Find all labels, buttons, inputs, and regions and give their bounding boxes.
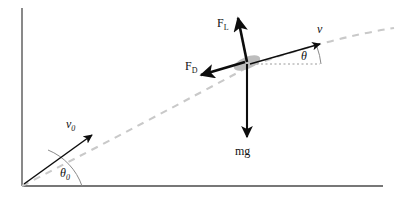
- projectile-path-curve: [22, 28, 394, 186]
- vector-labels: FL FD mg v0 v: [66, 16, 323, 158]
- weight-label: mg: [235, 144, 250, 158]
- diagram-canvas: FL FD mg v0 v θ0 θ: [0, 0, 396, 200]
- lift-force-vector: [238, 18, 247, 62]
- lift-force-label: FL: [217, 16, 229, 32]
- axis-frame: [22, 8, 383, 186]
- physics-diagram-figure: FL FD mg v0 v θ0 θ: [0, 0, 396, 200]
- drag-force-label: FD: [185, 59, 198, 75]
- flight-path-angle-label: θ: [301, 49, 307, 63]
- flight-path-angle-arc: [317, 47, 321, 64]
- velocity-label: v: [317, 22, 323, 36]
- launch-angle-label: θ0: [60, 166, 70, 182]
- velocity-vector: [250, 44, 320, 64]
- angle-labels: θ0 θ: [60, 49, 307, 182]
- initial-velocity-vector: [24, 135, 92, 184]
- vector-arrows: [24, 18, 320, 184]
- initial-velocity-label: v0: [66, 117, 75, 133]
